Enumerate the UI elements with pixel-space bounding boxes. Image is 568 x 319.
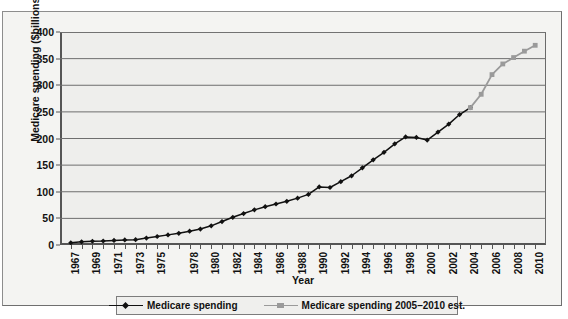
x-tick-mark — [449, 245, 450, 249]
series-marker — [511, 55, 516, 60]
x-tick-mark — [362, 245, 363, 249]
x-tick-mark — [352, 245, 353, 249]
x-tick-mark — [157, 245, 158, 249]
series-marker — [414, 135, 419, 140]
figure-root: Medicare spending ($billions) 0501001502… — [0, 0, 568, 319]
series-marker — [219, 219, 224, 224]
x-tick-mark — [308, 245, 309, 249]
x-tick-mark — [416, 245, 417, 249]
x-tick-mark — [460, 245, 461, 249]
x-tick-label: 1984 — [253, 252, 264, 274]
series-marker — [490, 72, 495, 77]
x-tick-label: 1971 — [113, 252, 124, 274]
series-marker — [111, 238, 116, 243]
x-tick-mark — [200, 245, 201, 249]
x-tick-label: 1978 — [188, 252, 199, 274]
series-marker — [144, 235, 149, 240]
x-tick-mark — [373, 245, 374, 249]
series-marker — [176, 231, 181, 236]
chart-svg — [60, 32, 546, 245]
chart-card-inner: Medicare spending ($billions) 0501001502… — [3, 12, 561, 305]
x-tick-label: 2000 — [426, 252, 437, 274]
x-tick-mark — [438, 245, 439, 249]
y-tick-label: 150 — [36, 159, 54, 171]
series-marker — [295, 196, 300, 201]
x-tick-mark — [503, 245, 504, 249]
x-axis-title: Year — [60, 274, 546, 286]
x-tick-mark — [524, 245, 525, 249]
y-tick-mark — [56, 218, 60, 219]
x-tick-mark — [71, 245, 72, 249]
x-tick-mark — [287, 245, 288, 249]
x-tick-mark — [233, 245, 234, 249]
x-tick-label: 1990 — [318, 252, 329, 274]
x-tick-label: 1982 — [231, 252, 242, 274]
legend-item-estimate: Medicare spending 2005–2010 est. — [264, 300, 465, 311]
clipped-title-remnant — [0, 0, 568, 9]
x-tick-mark — [406, 245, 407, 249]
series-marker — [263, 204, 268, 209]
series-marker — [500, 62, 505, 67]
series-marker — [522, 49, 527, 54]
x-tick-label: 1998 — [404, 252, 415, 274]
x-tick-mark — [514, 245, 515, 249]
x-tick-mark — [211, 245, 212, 249]
series-marker — [479, 92, 484, 97]
series-marker — [133, 237, 138, 242]
x-tick-mark — [92, 245, 93, 249]
series-marker — [101, 238, 106, 243]
legend-swatch-estimate — [264, 301, 298, 310]
legend-label-actual: Medicare spending — [147, 300, 238, 311]
x-tick-mark — [330, 245, 331, 249]
x-tick-label: 1992 — [339, 252, 350, 274]
x-tick-label: 1975 — [156, 252, 167, 274]
y-tick-mark — [56, 245, 60, 246]
y-tick-label: 350 — [36, 53, 54, 65]
x-tick-label: 1986 — [275, 252, 286, 274]
x-tick-label: 1969 — [91, 252, 102, 274]
series-marker — [273, 201, 278, 206]
series-marker — [209, 223, 214, 228]
x-tick-label: 1994 — [361, 252, 372, 274]
x-tick-mark — [535, 245, 536, 249]
x-tick-mark — [319, 245, 320, 249]
y-tick-label: 200 — [36, 133, 54, 145]
x-tick-mark — [481, 245, 482, 249]
series-marker — [533, 43, 538, 48]
x-tick-mark — [222, 245, 223, 249]
x-tick-mark — [82, 245, 83, 249]
x-tick-mark — [179, 245, 180, 249]
x-tick-label: 2002 — [447, 252, 458, 274]
x-tick-label: 1980 — [210, 252, 221, 274]
series-marker — [165, 232, 170, 237]
y-tick-mark — [56, 191, 60, 192]
x-tick-mark — [427, 245, 428, 249]
x-tick-label: 2008 — [512, 252, 523, 274]
x-tick-mark — [146, 245, 147, 249]
series-marker — [468, 105, 473, 110]
series-marker — [187, 229, 192, 234]
series-marker — [230, 215, 235, 220]
x-tick-mark — [298, 245, 299, 249]
x-tick-label: 1996 — [383, 252, 394, 274]
x-tick-label: 1973 — [134, 252, 145, 274]
y-tick-mark — [56, 85, 60, 86]
x-tick-label: 1988 — [296, 252, 307, 274]
series-marker — [198, 226, 203, 231]
y-tick-mark — [56, 58, 60, 59]
y-tick-label: 100 — [36, 186, 54, 198]
y-tick-label: 400 — [36, 26, 54, 38]
y-tick-mark — [56, 32, 60, 33]
y-tick-mark — [56, 111, 60, 112]
x-tick-mark — [492, 245, 493, 249]
series-marker — [241, 211, 246, 216]
x-tick-mark — [103, 245, 104, 249]
x-tick-mark — [276, 245, 277, 249]
x-tick-mark — [470, 245, 471, 249]
legend-swatch-actual — [109, 301, 143, 310]
x-tick-mark — [395, 245, 396, 249]
chart-legend: Medicare spending Medicare spending 2005… — [116, 296, 458, 315]
y-tick-label: 0 — [48, 239, 54, 251]
x-tick-mark — [168, 245, 169, 249]
x-tick-mark — [254, 245, 255, 249]
